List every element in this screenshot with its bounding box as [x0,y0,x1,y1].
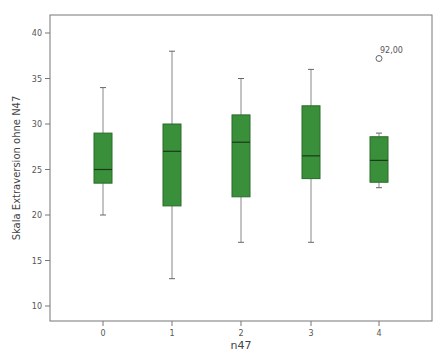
iqr-box [370,137,388,183]
iqr-box [302,106,320,179]
y-tick-label: 35 [32,75,42,84]
boxplot-chart: 10152025303540 01234 92,00 n47 Skala Ext… [0,0,447,363]
y-tick-label: 30 [32,120,42,129]
box-4: 92,00 [370,46,403,187]
boxes-group: 92,00 [94,46,403,278]
y-tick-label: 40 [32,29,42,38]
iqr-box [232,115,250,197]
y-axis: 10152025303540 [32,29,50,311]
box-2 [232,79,250,243]
y-tick-label: 15 [32,257,42,266]
outlier-marker [376,55,382,61]
y-axis-title: Skala Extraversion ohne N47 [11,96,22,241]
y-tick-label: 10 [32,302,42,311]
x-tick-label: 4 [376,329,381,338]
box-0 [94,88,112,215]
box-3 [302,69,320,242]
x-axis-title: n47 [231,339,252,352]
x-tick-label: 0 [100,329,105,338]
x-tick-label: 3 [308,329,313,338]
y-tick-label: 20 [32,211,42,220]
outlier-label: 92,00 [380,46,403,55]
iqr-box [163,124,181,206]
x-axis: 01234 [100,321,381,338]
iqr-box [94,133,112,183]
y-tick-label: 25 [32,166,42,175]
x-tick-label: 2 [238,329,243,338]
x-tick-label: 1 [169,329,174,338]
box-1 [163,51,181,279]
